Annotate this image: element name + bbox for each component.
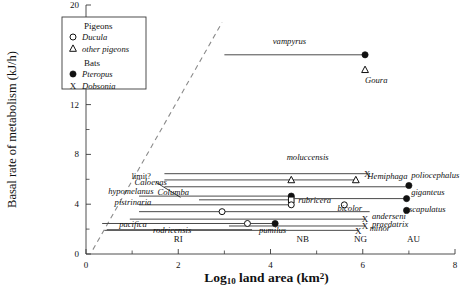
y-tick-label: 4	[75, 199, 80, 209]
y-axis-title: Basal rate of metabolism (kJ/h)	[5, 51, 19, 208]
series-label-Columba: Columba	[157, 187, 189, 197]
series-label-giganteus: giganteus	[411, 187, 445, 197]
legend-heading: Pigeons	[84, 21, 113, 31]
marker-open-circle	[288, 202, 294, 208]
x-tick-label: 4	[268, 260, 273, 270]
series-label-rubricera: rubricera	[298, 195, 331, 205]
y-tick-label: 12	[70, 100, 79, 110]
region-label-AU: AU	[407, 234, 420, 244]
limit-annotation-label: limit?	[132, 172, 151, 181]
y-tick-label: 20	[70, 0, 80, 10]
region-label-RI: RI	[174, 234, 183, 244]
legend-heading: Bats	[84, 58, 100, 68]
marker-cross-x: X	[362, 221, 369, 231]
series-label-Goura: Goura	[365, 75, 387, 85]
marker-open-circle	[219, 209, 225, 215]
series-label-pumilus: pumilus	[258, 225, 287, 235]
marker-open-circle	[70, 34, 76, 40]
region-label-NG: NG	[354, 234, 367, 244]
marker-filled-circle	[403, 195, 409, 201]
series-label-scapulatus: scapulatus	[409, 204, 446, 214]
chart-legend: PigeonsDuculaother pigeonsBatsPteropusXD…	[62, 17, 146, 91]
legend-entry-label: Dobsonia	[81, 81, 115, 91]
series-label-pistrinaria: pistrinaria	[114, 197, 152, 207]
series-label-bicolor: bicolor	[337, 203, 362, 213]
marker-filled-circle	[362, 52, 368, 58]
legend-entry-label: other pigeons	[82, 44, 130, 54]
series-label-Hemiphaga: Hemiphaga	[366, 171, 407, 181]
region-label-NB: NB	[297, 234, 310, 244]
x-axis-title: Log10 land area (km2)	[204, 270, 329, 286]
legend-entry-label: Ducula	[81, 32, 107, 42]
series-label-moluccensis: moluccensis	[287, 152, 330, 162]
y-tick-label: 8	[75, 149, 80, 159]
x-tick-label: 2	[176, 260, 181, 270]
series-label-poliocephalus: poliocephalus	[410, 170, 460, 180]
series-label-hypomelanus: hypomelanus	[108, 186, 154, 196]
series-label-pacifica: pacifica	[118, 219, 147, 229]
x-tick-label: 8	[453, 260, 458, 270]
series-label-rodricensis: rodricensis	[153, 225, 192, 235]
x-tick-label: 0	[84, 260, 89, 270]
legend-entry-label: Pteropus	[81, 69, 113, 79]
x-axis-title-text: Log10 land area (km2)	[204, 270, 329, 286]
marker-open-circle	[244, 220, 250, 226]
figure-container: 02468048121620 XXXX vampyrusGouramolucce…	[0, 0, 464, 286]
metabolism-vs-land-area-chart: 02468048121620 XXXX vampyrusGouramolucce…	[0, 0, 464, 286]
marker-filled-circle	[70, 71, 76, 77]
series-label-minor: minor	[370, 223, 391, 233]
marker-cross-x: X	[70, 81, 77, 91]
x-tick-label: 6	[361, 260, 366, 270]
y-tick-label: 0	[75, 249, 80, 259]
series-label-vampyrus: vampyrus	[273, 36, 307, 46]
